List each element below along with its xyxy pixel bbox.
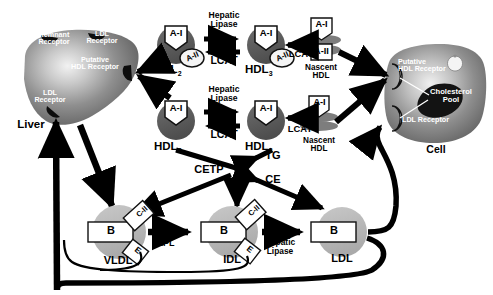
hdl-to-liver-arrow-main [139, 76, 170, 98]
lcat-4-label: LCAT [284, 124, 316, 134]
nascent-hdl-to-cell-arrow-upper [339, 52, 386, 75]
hdl3-lower-apo-ai-label: A-I [255, 103, 277, 113]
hdl3-upper-label: HDL3 [245, 63, 273, 77]
cell-label: Cell [414, 144, 458, 155]
liver-to-vldl-arrow [80, 125, 112, 206]
lipoprotein-metabolism-diagram: Remnant Receptor LDL Receptor Putative H… [0, 0, 493, 295]
cell-ldl-receptor-label: LDL Receptor [402, 116, 468, 123]
hdl3-upper-apo-ai-label: A-I [255, 28, 277, 38]
ldl-label: LDL [323, 253, 361, 264]
ldl-to-cell-arrow [368, 127, 396, 232]
cholesterol-pool-label: Cholesterol Pool [424, 88, 478, 103]
ldl-apo-b-label: B [322, 225, 346, 236]
liver-ldl-receptor-top-label: LDL Receptor [78, 30, 126, 45]
nascent-hdl-to-cell-arrow-lower [336, 80, 385, 122]
hdl2-upper-apo-ai-label: A-I [165, 28, 187, 38]
liver-putative-hdl-receptor-label: Putative HDL Receptor [62, 56, 128, 71]
hepatic-lipase-1-label: Hepatic Lipase [203, 11, 245, 29]
cetp-label: CETP [186, 164, 232, 175]
idl-apo-b-label: B [212, 225, 236, 236]
liver-remnant-receptor-label: Remnant Receptor [28, 31, 80, 46]
nascent-hdl-upper-apo-ai-label: A-I [311, 20, 332, 29]
lcat-2-label: LCAT [202, 129, 246, 140]
hdl2-lower-label: HDL2 [154, 140, 182, 154]
lcat-1-label: LCAT [202, 55, 246, 66]
nascent-hdl-upper-label: Nascent HDL [300, 64, 342, 81]
hepatic-lipase-2-label: Hepatic Lipase [203, 85, 245, 103]
hdl2-upper-label: HDL2 [154, 63, 182, 77]
vldl-apo-b-label: B [99, 225, 123, 236]
hdl2-lower-apo-ai-label: A-I [165, 103, 187, 113]
idl-label: IDL [213, 254, 251, 265]
liver-label: Liver [8, 119, 54, 131]
return-to-liver-arrow [56, 122, 57, 290]
lpl-label: LPL [152, 239, 180, 248]
nascent-hdl-lower-apo-ai-label: A-I [309, 98, 330, 107]
cetp-to-tg-arrow [239, 157, 258, 167]
tg-label: TG [262, 150, 284, 161]
liver-ldl-receptor-lower-label: LDL Receptor [25, 89, 75, 104]
ce-label: CE [262, 174, 284, 185]
hepatic-lipase-3-label: Hepatic Lipase [259, 238, 301, 255]
cell-putative-hdl-receptor-label: Putative HDL Receptor [398, 58, 460, 73]
lcat-3-label: LCAT [285, 49, 317, 59]
nascent-hdl-lower-label: Nascent HDL [298, 137, 340, 154]
vldl-label: VLDL [97, 255, 139, 266]
